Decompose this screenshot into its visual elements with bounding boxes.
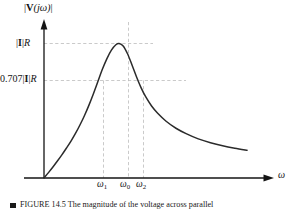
- y-tick-label-half-power: 0.707|I|R: [0, 74, 37, 84]
- y-tick-half-coefficient: 0.707: [0, 73, 23, 84]
- x-tick-omega0-symbol: ω: [120, 179, 127, 189]
- figure-caption-text: FIGURE 14.5 The magnitude of the voltage…: [20, 200, 213, 210]
- figure-container: |V(jω)| |I|R 0.707|I|R ω1 ω0 ω2 ω FIGURE…: [0, 0, 293, 211]
- x-tick-omega1-symbol: ω: [97, 179, 104, 189]
- y-tick-peak-resistance: R: [24, 37, 30, 48]
- x-axis-title: ω: [278, 170, 285, 180]
- y-axis-title-bar-close: |: [50, 2, 52, 13]
- x-tick-omega2-subscript: 2: [143, 183, 146, 190]
- x-tick-omega0-subscript: 0: [127, 183, 130, 190]
- resonance-plot-svg: [0, 0, 293, 211]
- y-tick-label-peak: |I|R: [16, 38, 30, 48]
- x-tick-label-omega2: ω2: [136, 180, 146, 190]
- x-tick-omega1-subscript: 1: [104, 183, 107, 190]
- y-axis-title: |V(jω)|: [24, 3, 52, 14]
- figure-caption-strip: FIGURE 14.5 The magnitude of the voltage…: [0, 200, 293, 211]
- y-tick-half-resistance: R: [30, 73, 36, 84]
- y-axis-title-vector: V: [26, 2, 33, 13]
- y-axis-arrowhead: [41, 19, 48, 30]
- magnitude-response-curve: [44, 43, 247, 178]
- caption-bullet-marker: [10, 203, 16, 208]
- y-axis-title-argument: (jω): [34, 2, 51, 13]
- x-axis-arrowhead: [264, 175, 275, 182]
- x-tick-label-omega0: ω0: [120, 180, 130, 190]
- x-tick-omega2-symbol: ω: [136, 179, 143, 189]
- x-tick-label-omega1: ω1: [97, 180, 107, 190]
